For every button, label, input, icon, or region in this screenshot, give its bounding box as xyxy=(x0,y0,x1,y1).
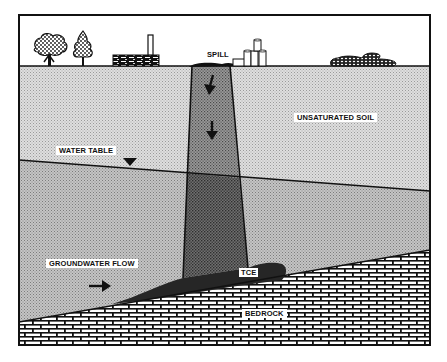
water-table-label: WATER TABLE xyxy=(56,146,116,155)
bedrock-label: BEDROCK xyxy=(242,309,287,318)
tce-label: TCE xyxy=(239,268,258,277)
plume-saturated xyxy=(183,173,248,278)
groundwater-flow-label: GROUNDWATER FLOW xyxy=(46,259,138,268)
unsaturated-soil-label: UNSATURATED SOIL xyxy=(294,113,377,122)
spill-label: SPILL xyxy=(204,50,232,59)
